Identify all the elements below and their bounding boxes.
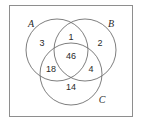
- set-label-b: B: [108, 18, 114, 29]
- venn-diagram-figure: A B C 3 1 2 46 18 4 14: [0, 0, 141, 124]
- region-value-b-only: 2: [97, 38, 102, 48]
- region-value-ac-only: 18: [46, 64, 56, 74]
- set-label-c: C: [99, 94, 106, 105]
- region-value-bc-only: 4: [88, 64, 93, 74]
- set-label-a: A: [27, 18, 35, 29]
- venn-diagram-canvas: A B C 3 1 2 46 18 4 14: [0, 0, 141, 124]
- region-value-abc-center: 46: [66, 51, 76, 61]
- region-value-c-only: 14: [66, 82, 76, 92]
- region-value-a-only: 3: [39, 38, 44, 48]
- region-value-ab-only: 1: [68, 32, 73, 42]
